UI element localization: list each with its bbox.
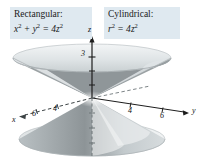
rect-eq-equals: = 4 [40, 24, 56, 34]
rect-eq-z-exp: 2 [60, 22, 63, 29]
cone-figure: Rectangular: x2 + y2 = 4z2 Cylindrical: … [0, 0, 204, 163]
cyl-eq-equals: = 4 [115, 24, 131, 34]
y-tick-label-6: 6 [160, 111, 164, 120]
x-tick-4 [57, 104, 59, 109]
y-tick-label-4: 4 [128, 106, 132, 115]
y-axis-arrow [183, 110, 189, 115]
cylindrical-equation: r2 = 4z2 [108, 22, 176, 36]
cylindrical-title: Cylindrical: [108, 9, 176, 21]
z-tick-label-3: 3 [81, 49, 85, 58]
cylindrical-label-box: Cylindrical: r2 = 4z2 [104, 7, 180, 39]
rectangular-title: Rectangular: [14, 9, 88, 21]
x-tick-label-4: 4 [53, 104, 57, 113]
x-axis-arrow [19, 114, 26, 119]
x-tick-label-6: 6 [32, 109, 36, 118]
cyl-eq-z-exp: 2 [135, 22, 138, 29]
rect-eq-plus: + [21, 24, 32, 34]
z-axis-label: z [88, 25, 91, 34]
rectangular-label-box: Rectangular: x2 + y2 = 4z2 [10, 7, 92, 39]
y-axis-label: y [192, 106, 196, 115]
rectangular-equation: x2 + y2 = 4z2 [14, 22, 88, 36]
x-axis-label: x [12, 115, 16, 124]
